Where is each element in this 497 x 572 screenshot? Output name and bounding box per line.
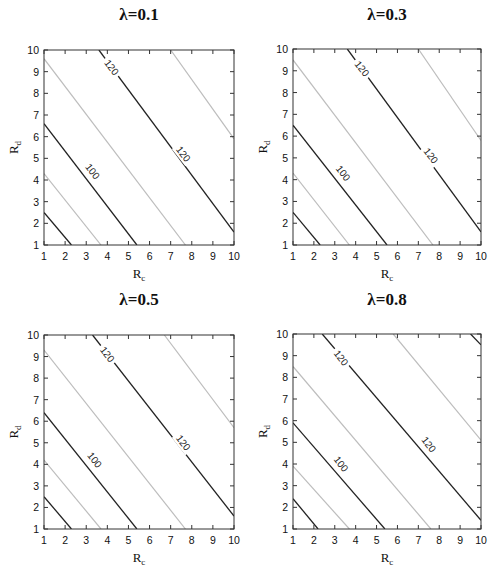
contour-line-light — [293, 466, 349, 529]
y-tick-label: 8 — [33, 87, 39, 99]
contour-lines — [44, 50, 234, 245]
y-tick-label: 5 — [33, 437, 39, 449]
y-tick-label: 4 — [282, 458, 288, 470]
y-tick-label: 2 — [282, 501, 288, 513]
contour-line-light — [164, 335, 234, 428]
y-tick-label: 8 — [282, 87, 288, 99]
x-tick-label: 3 — [332, 534, 338, 546]
x-tick-label: 6 — [395, 534, 401, 546]
contour-line-dark — [293, 125, 387, 245]
y-tick-label: 8 — [33, 372, 39, 384]
y-tick-label: 7 — [33, 109, 39, 121]
contour-line-dark — [293, 499, 318, 529]
contour-line-dark — [293, 423, 385, 529]
x-tick-label: 3 — [83, 250, 89, 262]
x-tick-label: 4 — [104, 534, 110, 546]
x-axis-label: Rc — [133, 550, 146, 567]
y-axis-label: Rd — [6, 425, 23, 439]
contour-label: 120 — [100, 55, 123, 80]
contour-label: 120 — [96, 342, 119, 367]
x-tick-label: 2 — [62, 534, 68, 546]
y-tick-label: 9 — [282, 65, 288, 77]
y-tick-label: 3 — [33, 196, 39, 208]
y-tick-label: 5 — [282, 436, 288, 448]
y-tick-label: 8 — [282, 371, 288, 383]
x-tick-label: 10 — [475, 250, 487, 262]
contour-label: 120 — [350, 56, 373, 81]
contour-line-light — [44, 460, 101, 529]
y-tick-label: 9 — [282, 350, 288, 362]
y-tick-label: 10 — [276, 328, 288, 340]
contour-line-dark — [293, 212, 320, 245]
x-tick-label: 10 — [475, 534, 487, 546]
contour-line-dark — [99, 50, 234, 232]
x-tick-label: 5 — [374, 250, 380, 262]
contour-label: 120 — [172, 430, 195, 455]
axis-ticks: 1234567891012345678910 — [27, 329, 240, 546]
y-tick-label: 3 — [33, 480, 39, 492]
contour-line-dark — [44, 213, 71, 246]
panel-lambda-0.8: λ=0.8 1001201201234567891012345678910RcR… — [255, 290, 487, 567]
y-tick-label: 10 — [27, 329, 39, 341]
x-tick-label: 9 — [457, 534, 463, 546]
contour-line-dark — [44, 497, 71, 529]
contour-line-light — [171, 50, 234, 139]
x-tick-label: 1 — [290, 250, 296, 262]
y-tick-label: 2 — [33, 501, 39, 513]
y-tick-label: 6 — [282, 130, 288, 142]
x-tick-label: 10 — [228, 534, 240, 546]
contour-lines — [44, 335, 234, 529]
contour-line-dark — [44, 413, 137, 529]
y-axis-label: Rd — [6, 140, 23, 154]
y-tick-label: 5 — [282, 152, 288, 164]
axis-ticks: 1234567891012345678910 — [276, 43, 487, 262]
panel-lambda-0.5: λ=0.5 1001201201234567891012345678910RcR… — [6, 290, 240, 567]
x-axis-label: Rc — [381, 550, 394, 567]
panel-title: λ=0.8 — [367, 290, 406, 309]
y-tick-label: 4 — [33, 458, 39, 470]
x-tick-label: 8 — [189, 250, 195, 262]
x-tick-label: 2 — [62, 250, 68, 262]
y-tick-label: 1 — [33, 523, 39, 535]
y-axis-label: Rd — [255, 140, 272, 154]
x-tick-label: 3 — [83, 534, 89, 546]
y-tick-label: 9 — [33, 351, 39, 363]
contour-line-dark — [44, 124, 137, 245]
y-tick-label: 1 — [282, 239, 288, 251]
contour-line-light — [293, 367, 431, 530]
x-tick-label: 4 — [353, 534, 359, 546]
y-tick-label: 3 — [282, 480, 288, 492]
contour-label: 120 — [417, 432, 440, 457]
x-tick-label: 9 — [210, 534, 216, 546]
contour-line-light — [418, 49, 481, 140]
axis-ticks: 1234567891012345678910 — [27, 44, 240, 262]
y-tick-label: 4 — [33, 174, 39, 186]
x-tick-label: 7 — [168, 534, 174, 546]
x-tick-label: 1 — [41, 250, 47, 262]
contour-label: 100 — [330, 452, 353, 477]
contour-line-light — [44, 174, 101, 246]
contour-label: 100 — [81, 159, 104, 184]
y-tick-label: 3 — [282, 195, 288, 207]
x-tick-label: 1 — [41, 534, 47, 546]
y-tick-label: 5 — [33, 152, 39, 164]
panel-lambda-0.1: λ=0.1 1001201201234567891012345678910RcR… — [6, 5, 240, 283]
x-tick-label: 9 — [457, 250, 463, 262]
y-tick-label: 4 — [282, 174, 288, 186]
plot-frame — [293, 49, 481, 245]
x-tick-label: 6 — [147, 534, 153, 546]
y-tick-label: 1 — [282, 523, 288, 535]
contour-line-light — [293, 173, 349, 245]
contour-line-light — [393, 334, 481, 440]
x-tick-label: 7 — [415, 534, 421, 546]
x-tick-label: 10 — [228, 250, 240, 262]
axis-ticks: 1234567891012345678910 — [276, 328, 487, 546]
x-axis-label: Rc — [133, 266, 146, 283]
y-tick-label: 7 — [33, 394, 39, 406]
panel-lambda-0.3: λ=0.3 1001201201234567891012345678910RcR… — [255, 5, 487, 283]
panel-title: λ=0.3 — [367, 5, 406, 24]
x-axis-label: Rc — [381, 266, 394, 283]
y-tick-label: 7 — [282, 108, 288, 120]
x-tick-label: 4 — [353, 250, 359, 262]
y-tick-label: 6 — [33, 131, 39, 143]
